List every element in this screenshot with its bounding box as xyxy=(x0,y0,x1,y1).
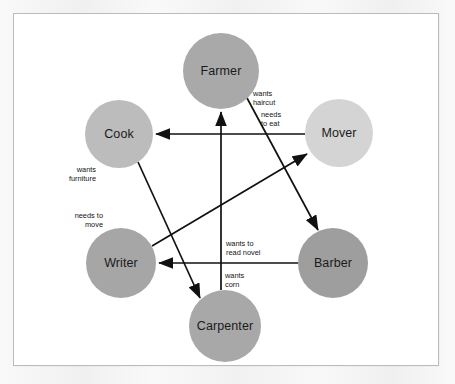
node-cook[interactable]: Cook xyxy=(85,100,153,168)
node-carpenter[interactable]: Carpenter xyxy=(189,290,261,362)
edge-writer-to-mover xyxy=(152,154,307,246)
node-label-cook: Cook xyxy=(104,127,134,141)
edge-label-carpenter-to-farmer: wants corn xyxy=(225,272,244,289)
figure-frame: FarmerMoverBarberCarpenterWriterCook wan… xyxy=(13,13,439,366)
edge-label-mover-to-cook: needs to eat xyxy=(261,111,281,128)
node-label-farmer: Farmer xyxy=(201,64,242,78)
edge-label-cook-to-carpenter: wants furniture xyxy=(50,166,96,183)
node-label-barber: Barber xyxy=(314,256,352,270)
node-label-carpenter: Carpenter xyxy=(197,319,254,333)
edge-lines xyxy=(138,98,318,298)
node-barber[interactable]: Barber xyxy=(298,228,368,298)
node-label-writer: Writer xyxy=(104,256,138,270)
edge-label-writer-to-mover: needs to move xyxy=(57,212,103,229)
node-label-mover: Mover xyxy=(321,126,356,140)
node-writer[interactable]: Writer xyxy=(86,228,156,298)
figure-page: FarmerMoverBarberCarpenterWriterCook wan… xyxy=(0,0,455,384)
diagram-canvas: FarmerMoverBarberCarpenterWriterCook wan… xyxy=(14,14,440,367)
edge-label-barber-to-writer: wants to read novel xyxy=(226,240,261,257)
node-mover[interactable]: Mover xyxy=(305,99,373,167)
edge-label-farmer-to-barber: wants haircut xyxy=(253,90,275,107)
node-farmer[interactable]: Farmer xyxy=(183,33,259,109)
